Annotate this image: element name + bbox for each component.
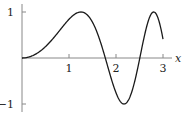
y-tick-label-neg1: −1 bbox=[0, 98, 14, 111]
y-tick-label-1: 1 bbox=[7, 6, 14, 19]
x-tick-label-3: 3 bbox=[160, 62, 167, 75]
x-tick-label-1: 1 bbox=[66, 62, 73, 75]
chart: 1 −1 1 2 3 x bbox=[0, 0, 188, 120]
x-axis-label: x bbox=[175, 52, 182, 65]
x-axis: 1 2 3 x bbox=[22, 52, 182, 75]
x-tick-label-2: 2 bbox=[113, 62, 120, 75]
